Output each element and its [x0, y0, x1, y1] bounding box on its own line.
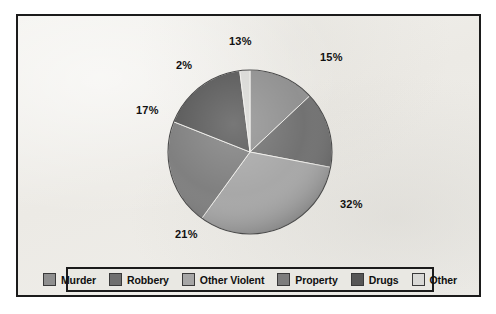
legend-item-property[interactable]: Property [277, 273, 337, 286]
pie-label-murder: 13% [229, 35, 252, 47]
pie-label-other-violent: 32% [340, 198, 363, 210]
pie-chart-figure: 13% 15% 32% 21% 17% 2% MurderRobberyOthe… [0, 0, 496, 314]
legend-item-robbery[interactable]: Robbery [109, 273, 169, 286]
legend-item-other-violent[interactable]: Other Violent [182, 273, 264, 286]
legend-swatch-robbery [109, 273, 122, 286]
chart-legend: MurderRobberyOther ViolentPropertyDrugsO… [66, 267, 434, 292]
pie-label-robbery: 15% [320, 51, 343, 63]
legend-item-murder[interactable]: Murder [43, 273, 96, 286]
legend-label-drugs: Drugs [369, 274, 399, 286]
legend-label-robbery: Robbery [127, 274, 169, 286]
legend-item-drugs[interactable]: Drugs [351, 273, 399, 286]
legend-swatch-property [277, 273, 290, 286]
legend-swatch-other-violent [182, 273, 195, 286]
pie-slices [168, 70, 332, 234]
legend-swatch-other [412, 273, 425, 286]
legend-swatch-drugs [351, 273, 364, 286]
pie-svg [152, 54, 348, 250]
legend-label-murder: Murder [61, 274, 96, 286]
pie-label-drugs: 17% [136, 104, 159, 116]
legend-label-other: Other [430, 274, 458, 286]
legend-swatch-murder [43, 273, 56, 286]
legend-item-other[interactable]: Other [412, 273, 458, 286]
legend-label-other-violent: Other Violent [200, 274, 264, 286]
pie-label-property: 21% [175, 228, 198, 240]
legend-label-property: Property [295, 274, 337, 286]
pie-label-other: 2% [176, 59, 192, 71]
pie-chart [152, 54, 348, 250]
